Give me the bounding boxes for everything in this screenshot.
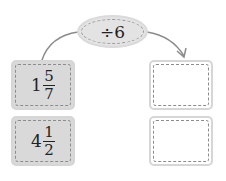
answer-box-1[interactable] [149, 60, 213, 110]
mixed-number: 1 5 7 [31, 69, 55, 102]
denominator: 2 [44, 143, 54, 158]
denominator: 7 [44, 87, 54, 102]
fraction: 1 2 [43, 125, 55, 158]
mixed-number: 4 1 2 [31, 125, 55, 158]
input-box-2: 4 1 2 [11, 116, 75, 166]
numerator: 1 [44, 125, 54, 140]
input-box-1: 1 5 7 [11, 60, 75, 110]
operation-bubble: ÷6 [77, 15, 148, 48]
whole-part: 1 [31, 75, 42, 95]
answer-box-2[interactable] [149, 116, 213, 166]
numerator: 5 [44, 69, 54, 84]
whole-part: 4 [31, 131, 42, 151]
fraction: 5 7 [43, 69, 55, 102]
operation-label: ÷6 [100, 22, 125, 42]
